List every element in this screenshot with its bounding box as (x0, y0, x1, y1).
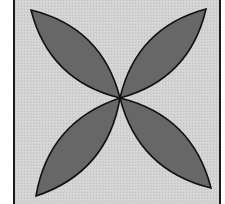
petal-diagram (0, 0, 225, 204)
